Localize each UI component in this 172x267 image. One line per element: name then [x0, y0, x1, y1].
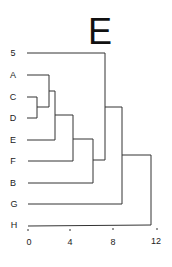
- axis-ticks: [28, 228, 157, 231]
- leaf-label-d: D: [8, 113, 18, 123]
- dendrogram: [0, 0, 172, 267]
- leaf-label-5: 5: [8, 48, 18, 58]
- tick-label-12: 12: [148, 236, 164, 246]
- tick-label-4: 4: [62, 237, 78, 247]
- leaf-label-g: G: [9, 199, 19, 209]
- leaf-label-a: A: [8, 70, 18, 80]
- leaf-label-b: B: [8, 178, 18, 188]
- leaf-label-e: E: [8, 135, 18, 145]
- tick-label-8: 8: [105, 237, 121, 247]
- leaf-label-c: C: [8, 92, 18, 102]
- leaf-label-f: F: [8, 156, 18, 166]
- dendrogram-branches: [27, 53, 151, 226]
- branch-h: [28, 225, 151, 226]
- tick-label-0: 0: [21, 237, 37, 247]
- leaf-label-h: H: [9, 220, 19, 230]
